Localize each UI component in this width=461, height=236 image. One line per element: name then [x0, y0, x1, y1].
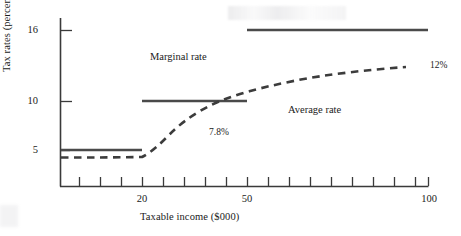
- y-axis-ticks: [61, 31, 72, 151]
- y-axis-title: Tax rates (percent): [2, 56, 13, 72]
- x-tick-label-100: 100: [412, 194, 446, 205]
- marginal-rate-series: [61, 30, 428, 150]
- marginal-rate-label: Marginal rate: [150, 52, 207, 63]
- y-tick-label-10: 10: [16, 96, 38, 107]
- x-axis-title: Taxable income ($000): [140, 212, 239, 223]
- average-rate-series: [61, 67, 406, 158]
- y-tick-label-16: 16: [16, 25, 38, 36]
- x-tick-label-20: 20: [125, 194, 159, 205]
- value-label-12-percent: 12%: [430, 61, 447, 71]
- x-axis-ticks: [80, 177, 429, 186]
- value-label-7-8-percent: 7.8%: [209, 128, 229, 138]
- y-tick-label-5: 5: [16, 145, 38, 156]
- x-tick-label-50: 50: [230, 194, 264, 205]
- average-rate-label: Average rate: [288, 105, 341, 116]
- tax-rates-chart: Tax rates (percent) Taxable income ($000…: [0, 0, 461, 236]
